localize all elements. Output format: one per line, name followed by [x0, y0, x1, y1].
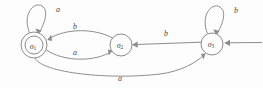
edge-path-sigma1-to-sigma2	[47, 50, 112, 59]
edge-label-sigma1-to-sigma3: a	[118, 74, 122, 83]
arrow-head-sigma3-to-sigma2	[132, 42, 138, 48]
start-arrow-head	[224, 40, 230, 46]
edge-path-sigma3-to-sigma2	[134, 42, 202, 44]
transition-sigma3-self-b: b	[205, 6, 238, 36]
edge-label-sigma3-to-sigma2: b	[164, 29, 168, 38]
transition-sigma3-to-sigma2-b: b	[132, 29, 201, 48]
state-sigma1-subscript: 1	[34, 45, 37, 51]
edge-label-sigma1-to-sigma2: a	[73, 48, 77, 57]
arrow-head-sigma1-to-sigma3	[201, 53, 206, 59]
transition-sigma1-to-sigma2-a: a	[47, 48, 113, 60]
state-sigma1[interactable]: σ1	[21, 32, 47, 58]
state-sigma2-subscript: 2	[121, 44, 124, 50]
state-sigma3[interactable]: σ3	[201, 33, 223, 55]
state-sigma3-subscript: 3	[212, 43, 215, 49]
automaton-figure: a b a b b a	[0, 0, 263, 88]
state-sigma2[interactable]: σ2	[110, 34, 132, 56]
arrow-head-sigma2-to-sigma1	[47, 35, 52, 41]
automaton-canvas: a b a b b a	[0, 0, 263, 88]
transition-sigma2-to-sigma1-b: b	[47, 22, 113, 41]
edge-label-sigma2-to-sigma1: b	[73, 22, 77, 31]
transition-sigma1-to-sigma3-a: a	[35, 53, 206, 82]
start-arrow	[224, 40, 262, 46]
edge-label-sigma3-self: b	[234, 6, 238, 15]
transition-sigma1-self-a: a	[27, 5, 60, 35]
edge-label-sigma1-self: a	[56, 5, 60, 14]
edge-path-sigma2-to-sigma1	[49, 31, 114, 39]
